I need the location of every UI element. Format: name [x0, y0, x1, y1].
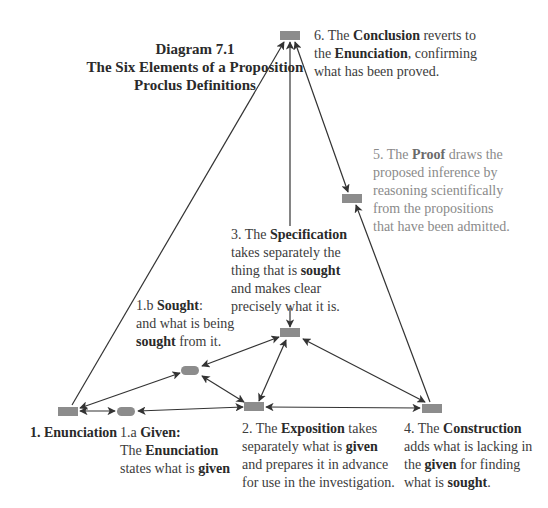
node-proof[interactable]	[342, 194, 362, 203]
edge-enunciation-sought	[80, 373, 180, 408]
node-enunciation[interactable]	[58, 407, 78, 416]
label-specification: 3. The Specification takes separately th…	[231, 226, 347, 316]
label-conclusion: 6. The Conclusion reverts to the Enuncia…	[314, 27, 477, 81]
edge-sought-exposition	[202, 376, 244, 402]
edge-exposition-construction	[266, 407, 420, 408]
node-specification[interactable]	[280, 328, 300, 337]
label-construction: 4. The Construction adds what is lacking…	[404, 420, 532, 492]
edge-specification-construction	[303, 339, 425, 402]
label-enunciation: 1. Enunciation	[30, 424, 117, 442]
edge-given-exposition	[138, 407, 243, 411]
label-proof: 5. The Proof draws the proposed inferenc…	[373, 146, 510, 236]
label-given: 1.a Given: The Enunciation states what i…	[120, 424, 230, 478]
node-exposition[interactable]	[244, 402, 264, 411]
label-sought: 1.b Sought: and what is being sought fro…	[136, 297, 234, 351]
edge-specification-exposition	[259, 340, 286, 401]
node-conclusion[interactable]	[280, 31, 300, 40]
node-sought[interactable]	[181, 366, 199, 375]
node-given[interactable]	[117, 407, 135, 416]
node-construction[interactable]	[422, 404, 442, 413]
label-exposition: 2. The Exposition takes separately what …	[242, 420, 395, 492]
